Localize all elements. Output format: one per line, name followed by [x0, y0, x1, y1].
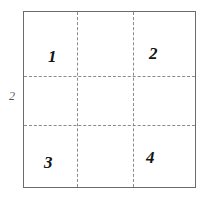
- cell-label-top-left: 1: [48, 48, 57, 65]
- vertical-dashed-line-1: [77, 12, 78, 187]
- side-length-label: 2: [4, 87, 20, 105]
- cell-label-bottom-left: 3: [44, 154, 53, 171]
- cell-label-top-right: 2: [149, 45, 158, 62]
- vertical-dashed-line-2: [133, 12, 134, 187]
- figure-root: 2 1 2 3 4: [0, 0, 204, 200]
- outer-square: 1 2 3 4: [23, 11, 196, 188]
- horizontal-dashed-line-2: [24, 125, 195, 126]
- horizontal-dashed-line-1: [24, 76, 195, 77]
- cell-label-bottom-right: 4: [146, 149, 155, 166]
